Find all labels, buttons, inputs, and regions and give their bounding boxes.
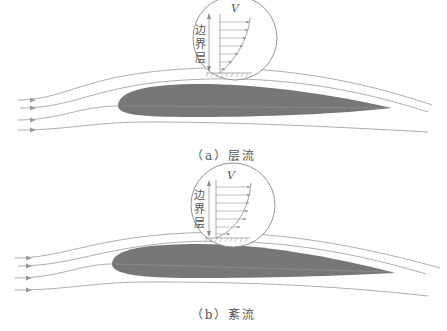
boundary-layer-label-b-3: 层 [194, 217, 205, 230]
boundary-layer-label-a-1: 边 [195, 24, 206, 37]
caption-b: （b）紊流 [0, 305, 447, 322]
boundary-layer-label-a-2: 界 [195, 38, 206, 51]
diagram-canvas: V V 边 界 层 边 界 层 [0, 0, 447, 331]
boundary-layer-label-a-3: 层 [195, 52, 206, 65]
airfoil-b [112, 244, 395, 278]
flow-arrows-b [26, 256, 32, 293]
velocity-label-a: V [231, 2, 240, 15]
airfoil-a [118, 84, 392, 117]
boundary-layer-label-b-1: 边 [194, 189, 205, 202]
caption-a: （a）层流 [0, 146, 447, 163]
panel-a-laminar [18, 0, 432, 133]
boundary-layer-label-b-2: 界 [194, 203, 205, 216]
panel-b-turbulent [15, 163, 440, 296]
velocity-label-b: V [227, 169, 236, 182]
flow-arrows-a [30, 98, 36, 133]
